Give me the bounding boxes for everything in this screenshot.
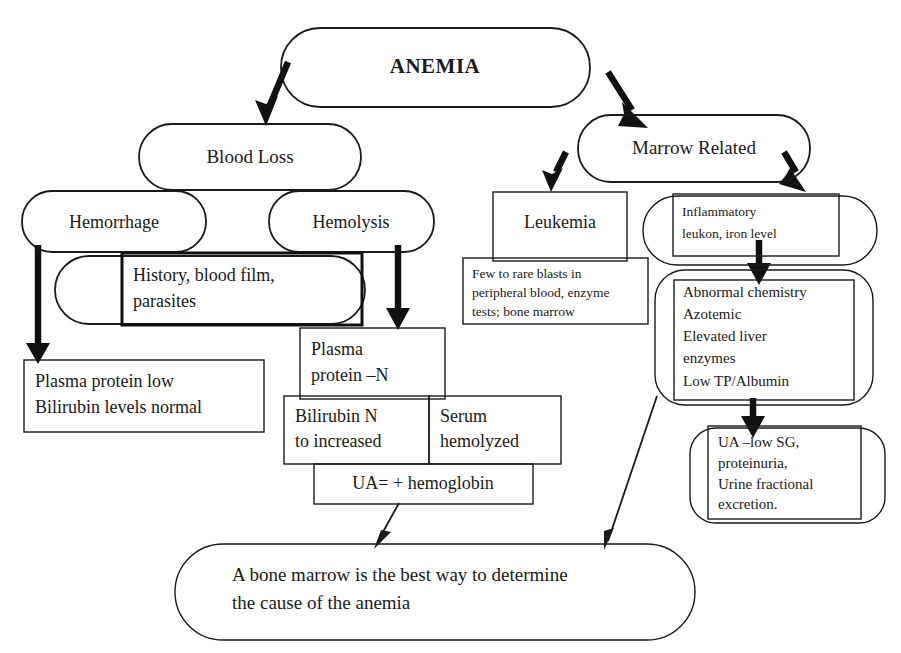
node-ua-hemoglobin-line-0: UA= + hemoglobin xyxy=(352,473,493,493)
edge-inflammatory-to-abnormal-chemistry xyxy=(747,240,771,285)
node-abnormal-chem-line-0: Abnormal chemistry xyxy=(683,284,807,300)
node-history-line-1: parasites xyxy=(133,291,196,311)
node-ua-low-sg-line-0: UA –low SG, xyxy=(718,434,799,450)
node-plasma-protein-n[interactable]: Plasma protein –N xyxy=(300,328,445,399)
node-bilirubin-line-1: to increased xyxy=(295,431,381,451)
node-abnormal-chemistry[interactable]: Abnormal chemistry Azotemic Elevated liv… xyxy=(655,270,873,405)
node-serum-hemolyzed[interactable]: Serum hemolyzed xyxy=(429,396,561,464)
node-blasts-line-0: Few to rare blasts in xyxy=(472,266,582,281)
edge-abnormal-chemistry-to-conclusion xyxy=(604,396,657,550)
node-inflammatory-line-1: leukon, iron level xyxy=(682,226,777,241)
node-plasma-protein-low-line-1: Bilirubin levels normal xyxy=(35,397,202,417)
node-blasts-line-2: tests; bone marrow xyxy=(472,304,575,319)
node-marrow-related-label: Marrow Related xyxy=(632,137,756,158)
edge-marrow-related-to-leukemia xyxy=(542,152,566,192)
node-leukemia-label: Leukemia xyxy=(524,212,596,232)
node-ua-low-sg[interactable]: UA –low SG, proteinuria, Urine fractiona… xyxy=(690,426,885,523)
node-blasts-line-1: peripheral blood, enzyme xyxy=(472,285,610,300)
node-history-blood-film[interactable]: History, blood film, parasites xyxy=(55,253,365,325)
node-plasma-protein-low-line-0: Plasma protein low xyxy=(35,371,174,391)
node-abnormal-chem-line-4: Low TP/Albumin xyxy=(683,373,789,389)
node-bilirubin-line-0: Bilirubin N xyxy=(295,406,378,426)
node-blood-loss[interactable]: Blood Loss xyxy=(139,124,361,190)
node-serum-hemolyzed-line-0: Serum xyxy=(440,406,487,426)
node-abnormal-chem-line-2: Elevated liver xyxy=(683,328,767,344)
node-hemorrhage-label: Hemorrhage xyxy=(69,212,159,232)
edge-marrow-related-to-inflammatory xyxy=(779,152,806,192)
node-serum-hemolyzed-line-1: hemolyzed xyxy=(440,431,519,451)
node-hemolysis[interactable]: Hemolysis xyxy=(269,191,434,252)
flowchart-svg: ANEMIA Blood Loss Marrow Related Hemorrh… xyxy=(0,0,901,653)
node-abnormal-chem-line-3: enzymes xyxy=(683,350,736,366)
node-history-line-0: History, blood film, xyxy=(133,265,275,285)
node-plasma-protein-n-line-1: protein –N xyxy=(311,365,388,385)
edge-ua-hemoglobin-to-conclusion xyxy=(374,503,399,549)
node-ua-low-sg-line-3: excretion. xyxy=(718,496,778,512)
edge-hemolysis-to-plasma-protein-n xyxy=(386,245,410,330)
node-inflammatory-line-0: Inflammatory xyxy=(682,204,756,219)
node-ua-hemoglobin[interactable]: UA= + hemoglobin xyxy=(314,464,533,504)
node-leukemia[interactable]: Leukemia xyxy=(493,192,627,261)
edge-abnormal-chemistry-to-ua-low-sg xyxy=(741,398,765,438)
node-conclusion-line-0: A bone marrow is the best way to determi… xyxy=(232,564,568,585)
flowchart-canvas: ANEMIA Blood Loss Marrow Related Hemorrh… xyxy=(0,0,901,653)
node-hemorrhage[interactable]: Hemorrhage xyxy=(22,191,206,252)
node-conclusion-line-1: the cause of the anemia xyxy=(232,592,411,613)
node-few-to-rare-blasts[interactable]: Few to rare blasts in peripheral blood, … xyxy=(463,258,648,324)
node-plasma-protein-low[interactable]: Plasma protein low Bilirubin levels norm… xyxy=(24,360,264,432)
edge-anemia-to-blood-loss xyxy=(255,62,288,126)
node-anemia[interactable]: ANEMIA xyxy=(281,28,590,107)
edge-anemia-to-marrow-related xyxy=(608,72,648,128)
node-blood-loss-label: Blood Loss xyxy=(206,146,293,167)
node-ua-low-sg-line-1: proteinuria, xyxy=(718,455,788,471)
node-hemolysis-label: Hemolysis xyxy=(312,212,389,232)
node-plasma-protein-n-line-0: Plasma xyxy=(311,339,363,359)
node-marrow-related[interactable]: Marrow Related xyxy=(578,115,810,182)
node-abnormal-chem-line-1: Azotemic xyxy=(683,306,742,322)
node-anemia-label: ANEMIA xyxy=(390,54,481,78)
node-conclusion[interactable]: A bone marrow is the best way to determi… xyxy=(175,544,695,640)
node-ua-low-sg-line-2: Urine fractional xyxy=(718,476,813,492)
edge-hemorrhage-to-plasma-protein-low xyxy=(26,245,50,364)
node-bilirubin[interactable]: Bilirubin N to increased xyxy=(284,396,429,464)
